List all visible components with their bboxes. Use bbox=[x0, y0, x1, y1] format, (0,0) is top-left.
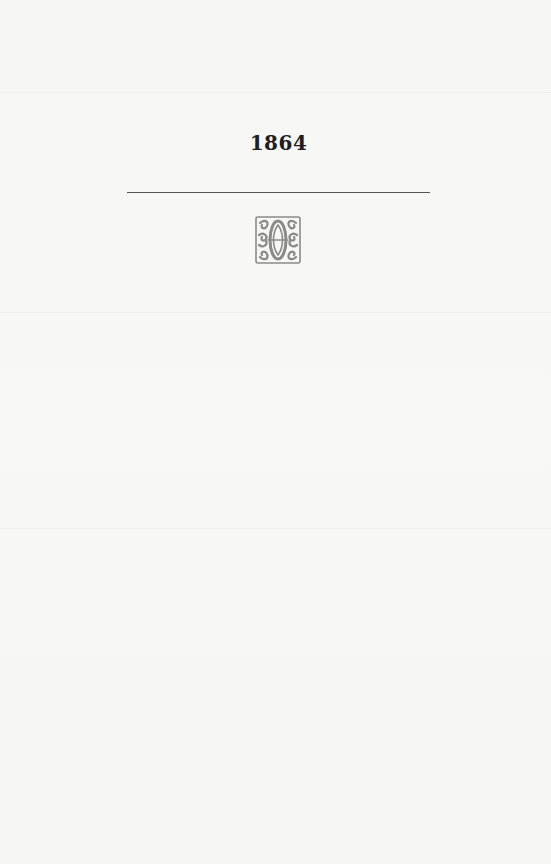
horizontal-rule bbox=[127, 192, 430, 193]
paper-fold-line bbox=[0, 312, 551, 313]
page-year-heading: 1864 bbox=[0, 131, 551, 155]
book-page: 1864 bbox=[0, 0, 551, 864]
ornament-icon bbox=[254, 215, 302, 265]
paper-fold-line bbox=[0, 92, 551, 93]
paper-fold-line bbox=[0, 528, 551, 529]
